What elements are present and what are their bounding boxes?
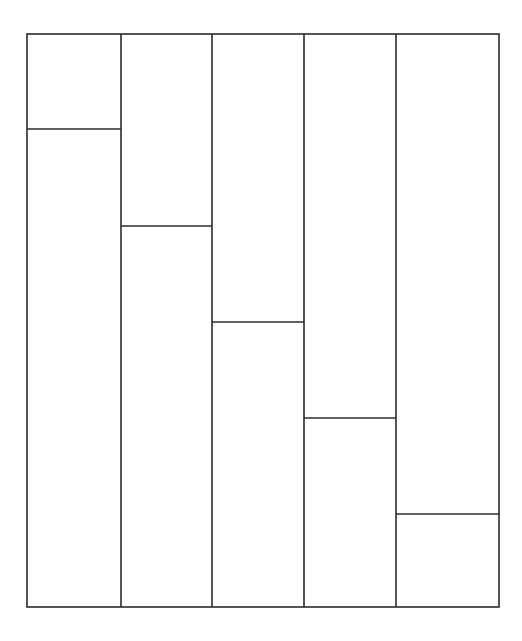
staggered-panel-diagram xyxy=(0,0,522,641)
outer-frame xyxy=(27,34,499,607)
